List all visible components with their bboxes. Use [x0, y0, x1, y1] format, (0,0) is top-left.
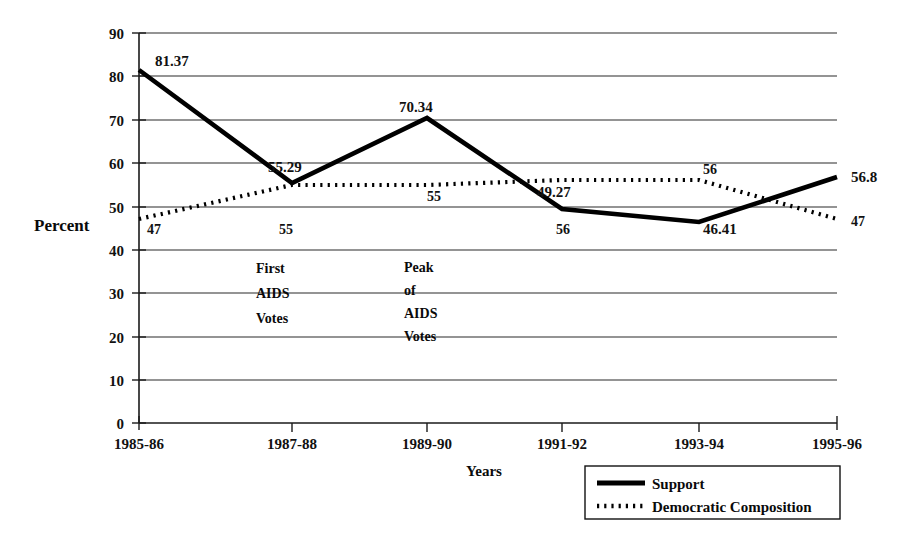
- x-tick-label-1993-94: 1993-94: [674, 436, 724, 452]
- y-tick-label-90: 90: [109, 26, 124, 42]
- series-line-support: [139, 70, 837, 222]
- annotation-first-aids-votes-line-1: AIDS: [256, 286, 290, 301]
- line-chart: 90 80 70 60 50 40 30 20 10 0 Percent 198…: [0, 0, 909, 554]
- x-tick-marks: [139, 416, 837, 432]
- y-tick-label-60: 60: [109, 156, 124, 172]
- x-tick-label-1987-88: 1987-88: [267, 436, 317, 452]
- data-label-dem-1989-90: 55: [427, 189, 441, 204]
- x-tick-label-1995-96: 1995-96: [812, 436, 862, 452]
- y-tick-label-10: 10: [109, 373, 124, 389]
- y-tick-label-50: 50: [109, 200, 124, 216]
- data-label-support-1993-94: 46.41: [703, 221, 737, 237]
- data-label-support-1995-96: 56.8: [851, 169, 877, 185]
- chart-canvas: 90 80 70 60 50 40 30 20 10 0 Percent 198…: [0, 0, 909, 554]
- y-tick-label-80: 80: [109, 69, 124, 85]
- x-tick-labels: 1985-86 1987-88 1989-90 1991-92 1993-94 …: [114, 436, 862, 452]
- y-tick-label-0: 0: [117, 416, 125, 432]
- annotation-peak-of-aids-votes-line-1: of: [404, 283, 416, 298]
- data-label-dem-1995-96: 47: [851, 214, 865, 229]
- data-label-support-1989-90: 70.34: [399, 99, 433, 115]
- chart-legend[interactable]: Support Democratic Composition: [585, 466, 840, 519]
- y-tick-label-70: 70: [109, 113, 124, 129]
- y-tick-label-30: 30: [109, 286, 124, 302]
- y-tick-label-40: 40: [109, 243, 124, 259]
- annotation-peak-of-aids-votes-line-0: Peak: [404, 260, 434, 275]
- data-label-support-1987-88: 55.29: [268, 159, 302, 175]
- legend-label-support[interactable]: Support: [652, 476, 705, 492]
- annotation-peak-of-aids-votes-line-3: Votes: [404, 329, 437, 344]
- data-label-dem-1991-92: 56: [556, 222, 570, 237]
- y-tick-labels: 90 80 70 60 50 40 30 20 10 0: [109, 26, 124, 432]
- data-label-dem-1993-94: 56: [703, 162, 717, 177]
- annotation-peak-of-aids-votes: Peak of AIDS Votes: [404, 260, 438, 344]
- x-tick-label-1985-86: 1985-86: [114, 436, 164, 452]
- data-label-support-1991-92: 49.27: [537, 184, 571, 200]
- annotation-first-aids-votes-line-2: Votes: [256, 311, 289, 326]
- x-axis-title: Years: [466, 463, 502, 479]
- y-tick-label-20: 20: [109, 330, 124, 346]
- data-labels-support: 81.37 55.29 70.34 49.27 46.41 56.8: [155, 53, 877, 237]
- annotation-first-aids-votes-line-0: First: [256, 261, 285, 276]
- data-label-dem-1987-88: 55: [279, 222, 293, 237]
- data-label-dem-1985-86: 47: [147, 222, 161, 237]
- x-tick-label-1991-92: 1991-92: [537, 436, 587, 452]
- y-axis-title: Percent: [34, 216, 90, 235]
- annotation-peak-of-aids-votes-line-2: AIDS: [404, 306, 438, 321]
- gridlines: [139, 33, 837, 380]
- annotation-first-aids-votes: First AIDS Votes: [256, 261, 290, 326]
- legend-label-democratic-composition[interactable]: Democratic Composition: [652, 499, 812, 515]
- x-tick-label-1989-90: 1989-90: [402, 436, 452, 452]
- data-label-support-1985-86: 81.37: [155, 53, 189, 69]
